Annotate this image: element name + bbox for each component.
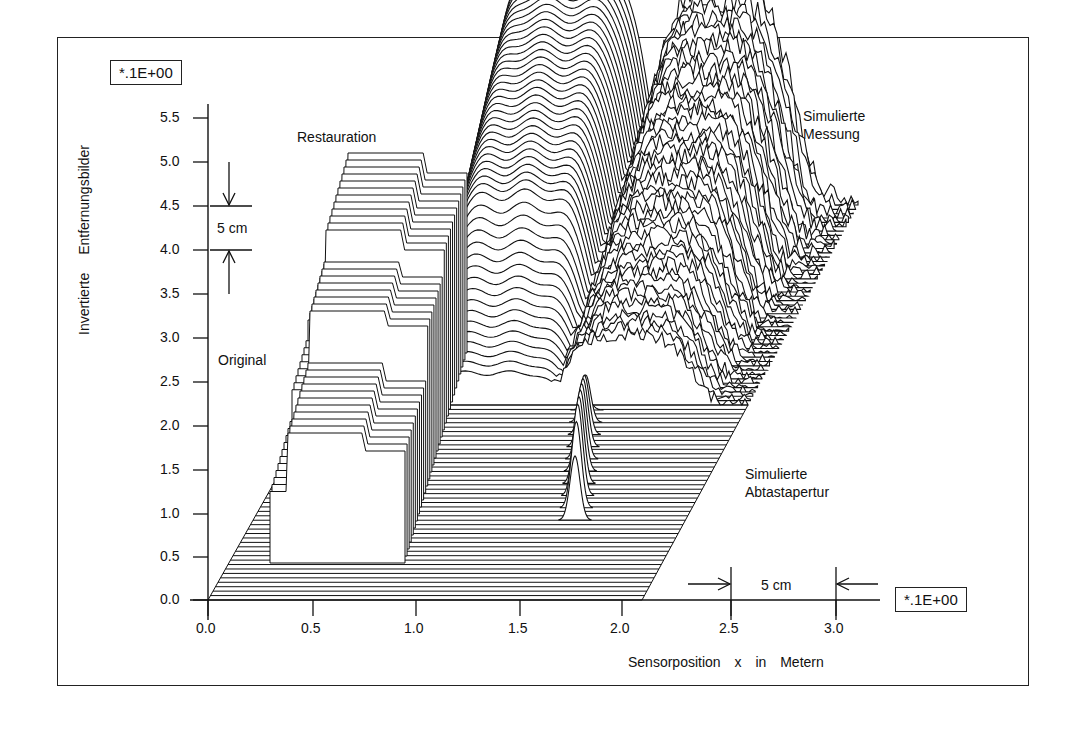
y-tick-label: 4.5: [160, 197, 179, 213]
y-scale-multiplier: *.1E+00: [110, 60, 182, 85]
y-tick-label: 5.5: [160, 109, 179, 125]
x-axis-label: Sensorposition x in Metern: [628, 654, 824, 672]
y-tick-label: 0.0: [160, 591, 179, 607]
y-axis-label: Invertierte Entfernungsbilder: [76, 145, 92, 335]
label-apertur-line1: Simulierte: [745, 466, 829, 484]
y-tick-label: 1.0: [160, 505, 179, 521]
y-ticks: [193, 118, 208, 600]
y-tick-label: 2.5: [160, 373, 179, 389]
x-tick-label: 1.5: [508, 620, 527, 636]
x-tick-label: 3.0: [824, 620, 843, 636]
original-step-surface: [270, 153, 467, 563]
y-tick-label: 4.0: [160, 241, 179, 257]
label-simulierte-messung: Simulierte Messung: [803, 108, 865, 143]
y-tick-label: 3.0: [160, 329, 179, 345]
label-messung-line2: Messung: [803, 126, 865, 144]
label-restauration: Restauration: [297, 129, 376, 147]
x-tick-label: 0.5: [301, 620, 320, 636]
x-scale-multiplier: *.1E+00: [895, 587, 967, 612]
label-original: Original: [218, 352, 266, 370]
label-apertur-line2: Abtastapertur: [745, 484, 829, 502]
x-tick-label: 0.0: [196, 620, 215, 636]
x-tick-label: 2.5: [719, 620, 738, 636]
x-tick-label: 2.0: [610, 620, 629, 636]
y-tick-label: 2.0: [160, 417, 179, 433]
x-ticks: [208, 600, 836, 616]
label-simulierte-abtastapertur: Simulierte Abtastapertur: [745, 466, 829, 501]
y-tick-label: 3.5: [160, 285, 179, 301]
y-tick-label: 0.5: [160, 548, 179, 564]
y-tick-label: 5.0: [160, 153, 179, 169]
x-tick-label: 1.0: [404, 620, 423, 636]
label-vertical-scale: 5 cm: [217, 220, 247, 238]
label-messung-line1: Simulierte: [803, 108, 865, 126]
y-tick-label: 1.5: [160, 461, 179, 477]
label-horizontal-scale: 5 cm: [761, 577, 791, 595]
